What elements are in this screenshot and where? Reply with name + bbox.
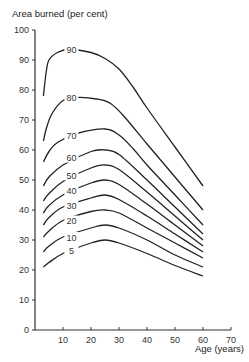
y-tick-label: 10 bbox=[19, 295, 29, 305]
x-tick-label: 10 bbox=[58, 335, 68, 345]
x-tick-label: 30 bbox=[114, 335, 124, 345]
x-axis-title: Age (years) bbox=[195, 343, 244, 354]
curve-label: 20 bbox=[66, 216, 76, 226]
y-tick-label: 70 bbox=[19, 115, 29, 125]
curves: 9080706050403020105 bbox=[43, 45, 203, 277]
curve-label: 50 bbox=[66, 171, 76, 181]
y-tick-label: 90 bbox=[19, 55, 29, 65]
curve-label: 10 bbox=[66, 233, 76, 243]
y-tick-label: 30 bbox=[19, 235, 29, 245]
y-tick-label: 40 bbox=[19, 205, 29, 215]
y-tick-label: 60 bbox=[19, 145, 29, 155]
curve-label: 40 bbox=[66, 186, 76, 196]
curve-label: 5 bbox=[69, 246, 74, 256]
y-axis-title: Area burned (per cent) bbox=[12, 8, 108, 19]
curve-90 bbox=[43, 50, 203, 187]
x-tick-label: 50 bbox=[170, 335, 180, 345]
x-tick-label: 20 bbox=[86, 335, 96, 345]
y-tick-label: 0 bbox=[24, 325, 29, 335]
curve-label: 30 bbox=[66, 201, 76, 211]
y-tick-label: 80 bbox=[19, 85, 29, 95]
y-tick-label: 50 bbox=[19, 175, 29, 185]
y-tick-label: 100 bbox=[14, 25, 29, 35]
curve-label: 80 bbox=[66, 93, 76, 103]
curve-label: 70 bbox=[66, 131, 76, 141]
area-burned-vs-age-chart: Area burned (per cent) 01020304050607080… bbox=[0, 0, 249, 362]
x-tick-label: 40 bbox=[142, 335, 152, 345]
curve-label: 90 bbox=[66, 45, 76, 55]
y-tick-label: 20 bbox=[19, 265, 29, 275]
curve-label: 60 bbox=[66, 153, 76, 163]
